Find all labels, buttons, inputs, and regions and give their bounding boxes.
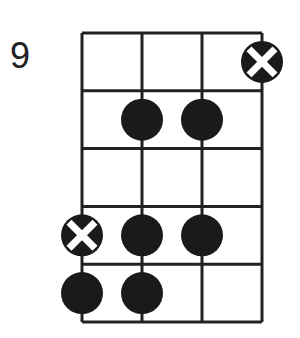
finger-dot [181, 214, 223, 256]
fretboard-grid [0, 0, 300, 338]
finger-dot [121, 272, 163, 314]
finger-dot [181, 99, 223, 141]
finger-dot [61, 272, 103, 314]
finger-dot [121, 214, 163, 256]
finger-dot [121, 99, 163, 141]
